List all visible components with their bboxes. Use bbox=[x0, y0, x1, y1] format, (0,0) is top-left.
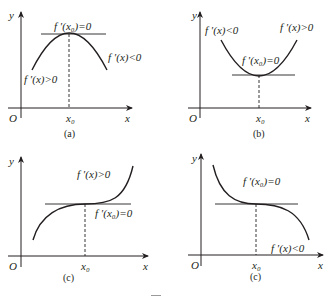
panel-d: y x O x₀ f ′(x₀)=0 f ′(x)<0 (c) bbox=[188, 152, 323, 283]
x0-label: x₀ bbox=[255, 112, 265, 124]
slope-label: f ′(x)>0 bbox=[77, 168, 111, 181]
panel-a: y x O x₀ f ′(x₀)=0 f ′(x)>0 f ′(x)<0 (a) bbox=[8, 9, 142, 140]
x-axis-label: x bbox=[304, 112, 310, 124]
origin-label: O bbox=[9, 260, 17, 272]
x0-label: x₀ bbox=[251, 259, 261, 271]
x-axis-label: x bbox=[124, 112, 130, 124]
y-axis-label: y bbox=[8, 9, 14, 21]
slope-label: f ′(x)<0 bbox=[271, 242, 305, 255]
tangent-label: f ′(x₀)=0 bbox=[243, 175, 281, 188]
x-axis-label: x bbox=[317, 259, 323, 271]
x-axis-label: x bbox=[142, 260, 148, 272]
max-curve bbox=[32, 33, 107, 70]
origin-label: O bbox=[191, 259, 199, 271]
origin-label: O bbox=[189, 112, 197, 124]
tangent-label: f ′(x₀)=0 bbox=[54, 20, 92, 33]
panel-caption: (b) bbox=[253, 128, 265, 140]
origin-label: O bbox=[9, 112, 17, 124]
y-axis-label: y bbox=[191, 152, 197, 164]
y-axis-label: y bbox=[8, 155, 14, 167]
panel-caption: (c) bbox=[63, 272, 74, 284]
right-derivative-label: f ′(x)>0 bbox=[280, 21, 314, 34]
panel-c: y x O x₀ f ′(x)>0 f ′(x₀)=0 (c) bbox=[8, 155, 148, 284]
derivative-diagram: y x O x₀ f ′(x₀)=0 f ′(x)>0 f ′(x)<0 (a)… bbox=[0, 0, 332, 297]
caption-fragment bbox=[151, 295, 161, 296]
x0-label: x₀ bbox=[80, 260, 90, 272]
tangent-label: f ′(x₀)=0 bbox=[95, 207, 133, 220]
left-derivative-label: f ′(x)>0 bbox=[24, 73, 58, 86]
y-axis-label: y bbox=[191, 9, 197, 21]
panel-caption: (c) bbox=[250, 271, 261, 283]
left-derivative-label: f ′(x)<0 bbox=[205, 24, 239, 37]
right-derivative-label: f ′(x)<0 bbox=[108, 51, 142, 64]
panel-b: y x O x₀ f ′(x₀)=0 f ′(x)<0 f ′(x)>0 (b) bbox=[188, 9, 314, 140]
x0-label: x₀ bbox=[65, 112, 75, 124]
tangent-label: f ′(x₀)=0 bbox=[242, 54, 280, 67]
panel-caption: (a) bbox=[64, 128, 75, 140]
